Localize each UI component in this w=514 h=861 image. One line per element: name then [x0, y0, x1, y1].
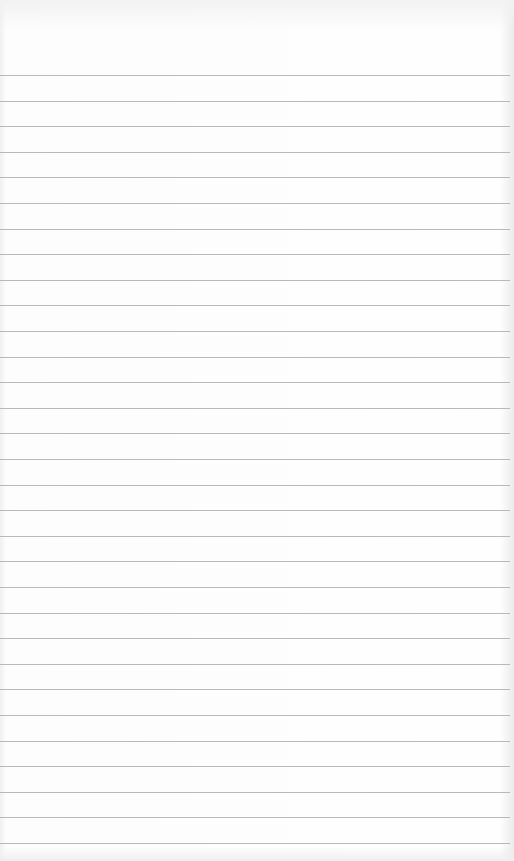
ruled-line: [0, 843, 510, 844]
ruled-line: [0, 536, 510, 537]
ruled-line: [0, 561, 510, 562]
ruled-line: [0, 254, 510, 255]
ruled-line: [0, 715, 510, 716]
ruled-line: [0, 75, 510, 76]
ruled-line: [0, 587, 510, 588]
ruled-line: [0, 817, 510, 818]
ruled-line: [0, 280, 510, 281]
ruled-line: [0, 766, 510, 767]
ruled-line: [0, 689, 510, 690]
ruled-line: [0, 792, 510, 793]
ruled-line: [0, 382, 510, 383]
ruled-line: [0, 459, 510, 460]
ruled-line: [0, 433, 510, 434]
lined-paper: [0, 0, 514, 861]
ruled-line: [0, 638, 510, 639]
ruled-line: [0, 101, 510, 102]
ruled-line: [0, 357, 510, 358]
ruled-line: [0, 408, 510, 409]
ruled-line: [0, 613, 510, 614]
ruled-line: [0, 331, 510, 332]
ruled-line: [0, 229, 510, 230]
ruled-line: [0, 305, 510, 306]
ruled-line: [0, 510, 510, 511]
ruled-line: [0, 664, 510, 665]
ruled-line: [0, 152, 510, 153]
ruled-line: [0, 177, 510, 178]
ruled-line: [0, 485, 510, 486]
ruled-line: [0, 741, 510, 742]
ruled-line: [0, 203, 510, 204]
ruled-line: [0, 126, 510, 127]
